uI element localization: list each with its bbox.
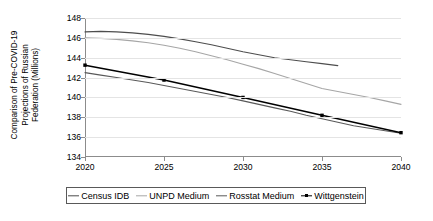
chart-figure: Comparison of Pre-COVID-19 Projections o… xyxy=(0,0,433,221)
x-axis-tick-labels: 20202025203020352040 xyxy=(85,162,401,176)
legend-label: UNPD Medium xyxy=(149,191,209,201)
y-axis-title: Comparison of Pre-COVID-19 Projections o… xyxy=(0,0,52,170)
x-tick-mark xyxy=(85,157,86,161)
y-tick-mark xyxy=(81,137,85,138)
y-gridline xyxy=(85,137,401,138)
series-line xyxy=(85,31,338,65)
legend-swatch-icon xyxy=(136,191,147,200)
y-tick-mark xyxy=(81,78,85,79)
legend-item[interactable]: Rosstat Medium xyxy=(216,191,301,201)
y-tick-mark xyxy=(81,18,85,19)
series-line xyxy=(85,38,401,105)
y-tick-mark xyxy=(81,58,85,59)
y-tick-mark xyxy=(81,38,85,39)
chart-legend: Census IDBUNPD MediumRosstat MediumWittg… xyxy=(66,187,366,204)
y-tick-label: 148 xyxy=(67,13,81,23)
series-marker xyxy=(83,63,86,66)
series-marker xyxy=(399,131,402,134)
y-tick-mark xyxy=(81,97,85,98)
legend-swatch-icon xyxy=(68,191,79,200)
y-gridline xyxy=(85,117,401,118)
y-axis-tick-labels: 148146144142140138136134 xyxy=(53,18,81,157)
legend-item[interactable]: Census IDB xyxy=(68,191,136,201)
legend-label: Wittgenstein xyxy=(314,191,364,201)
y-tick-label: 140 xyxy=(67,92,81,102)
x-tick-label: 2040 xyxy=(391,162,410,172)
legend-swatch-icon xyxy=(216,191,227,200)
series-marker xyxy=(162,78,165,81)
y-axis-title-line-1: Comparison of Pre-COVID-19 xyxy=(10,31,21,140)
x-tick-label: 2020 xyxy=(75,162,94,172)
legend-item[interactable]: Wittgenstein xyxy=(301,191,364,201)
y-gridline xyxy=(85,38,401,39)
x-tick-label: 2035 xyxy=(312,162,331,172)
y-tick-label: 136 xyxy=(67,132,81,142)
x-tick-mark xyxy=(243,157,244,161)
x-tick-label: 2025 xyxy=(154,162,173,172)
y-gridline xyxy=(85,18,401,19)
legend-label: Rosstat Medium xyxy=(229,191,294,201)
y-gridline xyxy=(85,58,401,59)
legend-swatch-icon xyxy=(301,191,312,200)
y-tick-label: 144 xyxy=(67,53,81,63)
series-line xyxy=(85,73,401,134)
x-tick-mark xyxy=(322,157,323,161)
x-tick-label: 2030 xyxy=(233,162,252,172)
plot-area xyxy=(85,18,401,157)
legend-item[interactable]: UNPD Medium xyxy=(136,191,216,201)
y-tick-label: 142 xyxy=(67,73,81,83)
y-axis-title-line-3: Federation (Millions) xyxy=(31,31,42,140)
x-tick-mark xyxy=(164,157,165,161)
y-axis-title-line-2: Projections of Russian xyxy=(21,31,32,140)
y-tick-label: 138 xyxy=(67,112,81,122)
legend-label: Census IDB xyxy=(81,191,129,201)
y-tick-mark xyxy=(81,117,85,118)
x-tick-mark xyxy=(401,157,402,161)
y-gridline xyxy=(85,97,401,98)
chart-lines xyxy=(85,18,401,157)
y-tick-label: 146 xyxy=(67,33,81,43)
y-gridline xyxy=(85,78,401,79)
y-tick-label: 134 xyxy=(67,152,81,162)
